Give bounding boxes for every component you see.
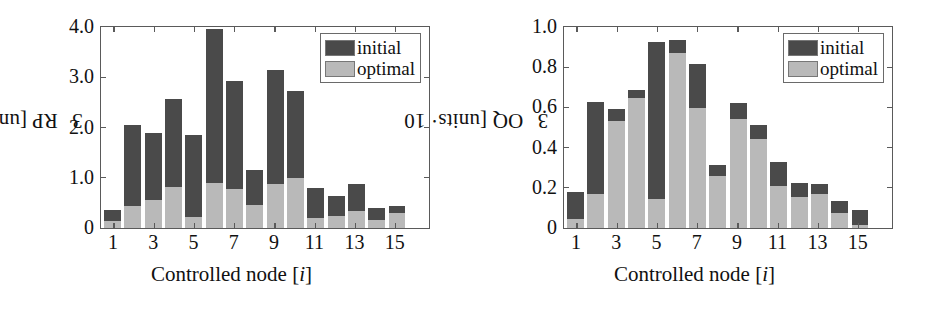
- bar-segment-optimal: [206, 183, 223, 228]
- bar-segment-initial: [226, 81, 243, 189]
- x-tickmark: [778, 223, 779, 228]
- bar-segment-optimal: [811, 194, 828, 228]
- bar-segment-optimal: [791, 197, 808, 228]
- bar-node-10: [750, 27, 767, 228]
- bar-node-2: [124, 27, 141, 228]
- x-tick-13: 13: [808, 231, 828, 254]
- bar-node-4: [165, 27, 182, 228]
- legend-rp: initial optimal: [320, 33, 421, 83]
- x-tick-labels-oq: 13579111315: [563, 231, 893, 259]
- legend-item-optimal: optimal: [788, 58, 878, 79]
- y-tickmark: [101, 177, 106, 178]
- x-tickmark: [737, 223, 738, 228]
- y-tick-1.0: 1.0: [532, 15, 557, 38]
- bar-segment-initial: [811, 184, 828, 194]
- x-tickmark: [617, 27, 618, 32]
- legend-label-optimal: optimal: [820, 59, 878, 78]
- y-tickmark: [887, 107, 892, 108]
- bar-segment-optimal: [368, 220, 385, 228]
- x-tickmark: [355, 27, 356, 32]
- bar-segment-optimal: [709, 176, 726, 228]
- x-tickmark: [395, 27, 396, 32]
- bar-segment-initial: [145, 133, 162, 200]
- x-tickmark: [858, 27, 859, 32]
- y-tick-labels-oq: 00.20.40.60.81.0: [497, 0, 561, 260]
- x-tickmark: [194, 27, 195, 32]
- x-tick-labels-rp: 13579111315: [100, 231, 430, 259]
- y-tickmark: [101, 77, 106, 78]
- bar-node-10: [287, 27, 304, 228]
- x-tickmark: [234, 223, 235, 228]
- bar-segment-optimal: [165, 187, 182, 228]
- y-tick-0.4: 0.4: [532, 135, 557, 158]
- legend-swatch-initial: [325, 40, 355, 56]
- x-tickmark: [818, 27, 819, 32]
- bar-segment-optimal: [750, 139, 767, 228]
- bar-node-5: [185, 27, 202, 228]
- x-tickmark: [858, 223, 859, 228]
- legend-oq: initial optimal: [783, 33, 884, 83]
- bar-segment-initial: [770, 162, 787, 186]
- bar-node-2: [587, 27, 604, 228]
- y-tickmark: [887, 147, 892, 148]
- bar-segment-optimal: [389, 213, 406, 228]
- y-tick-0.6: 0.6: [532, 95, 557, 118]
- legend-item-optimal: optimal: [325, 58, 415, 79]
- bar-segment-initial: [328, 196, 345, 216]
- bar-segment-initial: [368, 208, 385, 221]
- y-tickmark: [564, 187, 569, 188]
- bar-segment-optimal: [628, 98, 645, 228]
- bar-segment-optimal: [124, 206, 141, 228]
- bar-segment-optimal: [669, 53, 686, 228]
- bar-node-7: [689, 27, 706, 228]
- y-tick-0: 0: [84, 216, 94, 239]
- bar-segment-initial: [791, 183, 808, 197]
- bar-segment-initial: [831, 201, 848, 213]
- bar-node-1: [567, 27, 584, 228]
- panel-oq: OQ [units· 103] 00.20.40.60.81.0 initial…: [463, 0, 926, 315]
- x-tick-5: 5: [189, 231, 199, 254]
- x-tickmark: [274, 223, 275, 228]
- x-tick-15: 15: [385, 231, 405, 254]
- bar-segment-initial: [307, 188, 324, 218]
- x-tick-13: 13: [345, 231, 365, 254]
- bar-node-6: [669, 27, 686, 228]
- x-tickmark: [818, 223, 819, 228]
- bar-segment-optimal: [770, 186, 787, 228]
- legend-swatch-initial: [788, 40, 818, 56]
- x-axis-label-rp: Controlled node [i]: [0, 262, 463, 287]
- bar-segment-initial: [287, 91, 304, 177]
- legend-label-initial: initial: [357, 38, 401, 57]
- bar-node-1: [104, 27, 121, 228]
- x-tick-11: 11: [305, 231, 324, 254]
- x-tickmark: [657, 27, 658, 32]
- y-tick-1.0: 1.0: [69, 165, 94, 188]
- x-tickmark: [234, 27, 235, 32]
- plot-area-rp: initial optimal: [100, 26, 430, 229]
- bar-segment-initial: [628, 90, 645, 98]
- y-tick-labels-rp: 01.02.03.04.0: [34, 0, 98, 260]
- x-tick-1: 1: [108, 231, 118, 254]
- y-tick-0: 0: [547, 216, 557, 239]
- legend-item-initial: initial: [325, 37, 415, 58]
- x-tickmark: [315, 223, 316, 228]
- x-tickmark: [395, 223, 396, 228]
- bar-segment-initial: [206, 29, 223, 183]
- bar-segment-initial: [185, 135, 202, 217]
- bar-node-8: [709, 27, 726, 228]
- x-tick-1: 1: [571, 231, 581, 254]
- x-tick-5: 5: [652, 231, 662, 254]
- bar-segment-initial: [587, 102, 604, 193]
- x-tickmark: [737, 27, 738, 32]
- y-tick-4.0: 4.0: [69, 15, 94, 38]
- legend-swatch-optimal: [325, 61, 355, 77]
- x-tickmark: [154, 223, 155, 228]
- bar-segment-optimal: [831, 213, 848, 228]
- bar-node-9: [267, 27, 284, 228]
- x-tickmark: [697, 223, 698, 228]
- x-tick-9: 9: [732, 231, 742, 254]
- x-tickmark: [274, 27, 275, 32]
- x-tickmark: [697, 27, 698, 32]
- bar-node-3: [608, 27, 625, 228]
- legend-label-initial: initial: [820, 38, 864, 57]
